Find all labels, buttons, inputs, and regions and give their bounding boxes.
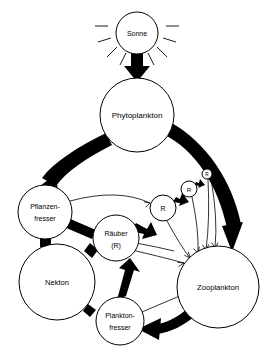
thin-link-raeuber-stub [136, 243, 174, 251]
thin-link-planktonfresser-zooplankton [142, 295, 182, 312]
sun-ray-icon-3 [107, 47, 117, 57]
thick-flow-planktonfresser-raeuber [117, 258, 140, 300]
thin-link-r2-zooplankton [192, 197, 198, 253]
node-phytoplankton-circle [100, 78, 174, 152]
sun-ray-icon-4 [120, 53, 126, 65]
thin-link-pflanzenfresser-r1 [70, 195, 150, 203]
thin-link-arrowhead-r1-in [144, 202, 150, 207]
node-nekton[interactable]: Nekton [19, 244, 95, 320]
node-raeuber[interactable]: Räuber (R) [93, 215, 139, 261]
node-zooplankton-circle [177, 246, 259, 328]
node-phytoplankton[interactable]: Phytoplankton [100, 78, 174, 152]
sun-ray-icon-7 [157, 47, 167, 57]
thin-link-r3-zooplankton [206, 179, 209, 250]
thick-flow-sonne-phytoplankton [124, 50, 150, 82]
node-r1-circle [150, 195, 176, 221]
node-r2-circle [181, 181, 197, 197]
node-r3[interactable]: R [202, 169, 212, 179]
sun-ray-icon-6 [163, 38, 176, 42]
node-r1[interactable]: R [150, 195, 176, 221]
sun-ray-icon-2 [98, 38, 111, 42]
food-web-canvas: Sonne Phytoplankton Pflanzen- fresser Ne… [0, 0, 273, 355]
node-r2[interactable]: R [181, 181, 197, 197]
node-sonne-circle [116, 12, 158, 54]
node-r3-circle [202, 169, 212, 179]
thin-link-raeuber-zooplankton [132, 250, 184, 263]
thin-link-r1-zooplankton [167, 221, 190, 258]
node-raeuber-circle [93, 215, 139, 261]
food-web-diagram: Sonne Phytoplankton Pflanzen- fresser Ne… [0, 0, 273, 355]
node-nekton-circle [19, 244, 95, 320]
node-planktonfresser-circle [96, 297, 144, 345]
node-pflanzenfresser[interactable]: Pflanzen- fresser [18, 185, 72, 239]
node-zooplankton[interactable]: Zooplankton [177, 246, 259, 328]
sun-ray-icon-8 [148, 53, 154, 65]
node-pflanzenfresser-circle [18, 185, 72, 239]
node-sonne[interactable]: Sonne [116, 12, 158, 54]
node-planktonfresser[interactable]: Plankton- fresser [96, 297, 144, 345]
